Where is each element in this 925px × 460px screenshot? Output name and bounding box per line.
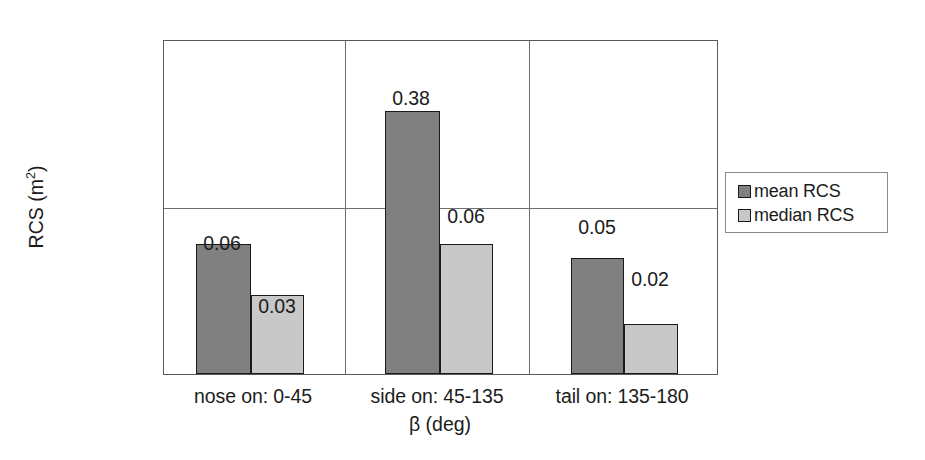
y-axis-title: RCS (m2)	[24, 166, 48, 249]
x-tick-label-side-on: side on: 45-135	[371, 385, 504, 408]
bar-median-side-on[interactable]	[440, 244, 493, 374]
legend-swatch-mean-rcs	[738, 185, 751, 198]
category-separator-2	[529, 41, 530, 374]
legend-label-mean-rcs: mean RCS	[754, 181, 840, 202]
bar-value-median-nose-on: 0.03	[258, 295, 296, 318]
x-axis-title: β (deg)	[409, 413, 471, 436]
y-axis-title-tail: )	[25, 166, 47, 173]
bar-mean-side-on[interactable]	[385, 111, 440, 374]
bar-value-mean-tail-on: 0.05	[578, 216, 616, 239]
category-separator-1	[345, 41, 346, 374]
bar-mean-nose-on[interactable]	[196, 244, 251, 374]
bar-value-median-side-on: 0.06	[447, 205, 485, 228]
legend-label-median-rcs: median RCS	[754, 205, 854, 226]
gridline-0.10	[164, 208, 717, 209]
bar-mean-tail-on[interactable]	[571, 258, 624, 374]
bar-value-median-tail-on: 0.02	[631, 268, 669, 291]
y-axis-title-base: RCS (m	[25, 179, 47, 248]
legend-item-median-rcs[interactable]: median RCS	[738, 203, 887, 227]
x-tick-label-nose-on: nose on: 0-45	[194, 385, 312, 408]
bar-value-mean-nose-on: 0.06	[203, 232, 241, 255]
bar-median-tail-on[interactable]	[624, 324, 678, 374]
legend: mean RCS median RCS	[725, 172, 888, 233]
legend-item-mean-rcs[interactable]: mean RCS	[738, 179, 887, 203]
legend-swatch-median-rcs	[738, 209, 751, 222]
bar-value-mean-side-on: 0.38	[392, 87, 430, 110]
rcs-bar-chart-figure: RCS (m2) 1.00 0.10 0.01 0.06 0.03 0.38 0…	[0, 0, 925, 460]
x-tick-label-tail-on: tail on: 135-180	[556, 385, 689, 408]
y-axis-title-exponent: 2	[24, 172, 38, 179]
plot-area	[163, 40, 718, 375]
